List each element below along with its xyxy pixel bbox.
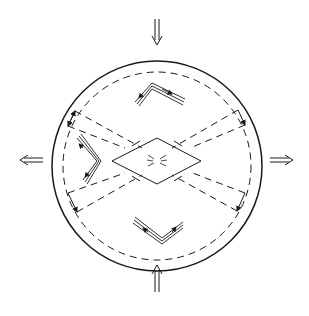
- outer-circle: [52, 61, 262, 271]
- central-convergence-arrows: [147, 155, 167, 166]
- extension-arrow-left: [20, 155, 43, 165]
- central-rhombus: [112, 138, 201, 184]
- compression-arrow-top: [152, 19, 162, 45]
- extension-arrow-right: [270, 155, 293, 165]
- deformation-diagram: [0, 0, 309, 316]
- fold-left: [77, 134, 101, 184]
- compression-arrow-bottom: [152, 265, 162, 292]
- inner-dashed-circle: [63, 72, 251, 260]
- band-end-arrows: [68, 110, 245, 212]
- fold-top: [135, 83, 185, 106]
- fold-bottom: [133, 217, 183, 244]
- shear-bands: [68, 110, 245, 212]
